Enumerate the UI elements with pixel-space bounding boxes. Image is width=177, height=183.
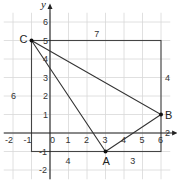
y-axis-arrow-icon [48, 4, 53, 10]
x-tick-label: -2 [5, 135, 13, 145]
point-a-marker [104, 150, 108, 154]
x-tick-label: -1 [24, 135, 32, 145]
y-tick-label: 1 [43, 110, 48, 120]
x-tick-label: 5 [140, 135, 145, 145]
x-tick-label: 1 [66, 135, 71, 145]
dim-bottom-left: 4 [66, 156, 71, 166]
point-b-marker [159, 113, 163, 117]
dim-right: 4 [165, 73, 170, 83]
x-tick-label: 6 [158, 135, 163, 145]
y-tick-label: 4 [43, 54, 48, 64]
dim-bottom-right: 3 [130, 156, 135, 166]
y-tick-label: 3 [43, 73, 48, 83]
coordinate-diagram: xy -2-10123456-2-1123456 746432 ABC [0, 0, 177, 183]
x-tick-label: 0 [50, 135, 55, 145]
dim-top: 7 [94, 29, 99, 39]
x-axis-arrow-icon [172, 131, 177, 136]
x-tick-label: 4 [121, 135, 126, 145]
x-tick-label: 2 [84, 135, 89, 145]
y-tick-label: -2 [39, 165, 47, 175]
point-b-label: B [165, 109, 172, 121]
point-c-label: C [20, 33, 28, 45]
dim-left: 6 [11, 91, 16, 101]
y-tick-label: 5 [43, 36, 48, 46]
y-tick-label: -1 [39, 147, 47, 157]
point-c-marker [30, 39, 34, 43]
dim-right-lower: 2 [165, 128, 170, 138]
y-tick-label: 6 [43, 17, 48, 27]
grid-lines [4, 13, 171, 180]
y-tick-label: 2 [43, 91, 48, 101]
dimension-labels: 746432 [11, 29, 170, 166]
point-a-label: A [103, 155, 111, 167]
axes: xy [4, 0, 177, 179]
x-tick-label: 3 [103, 135, 108, 145]
y-axis-label: y [40, 0, 46, 10]
